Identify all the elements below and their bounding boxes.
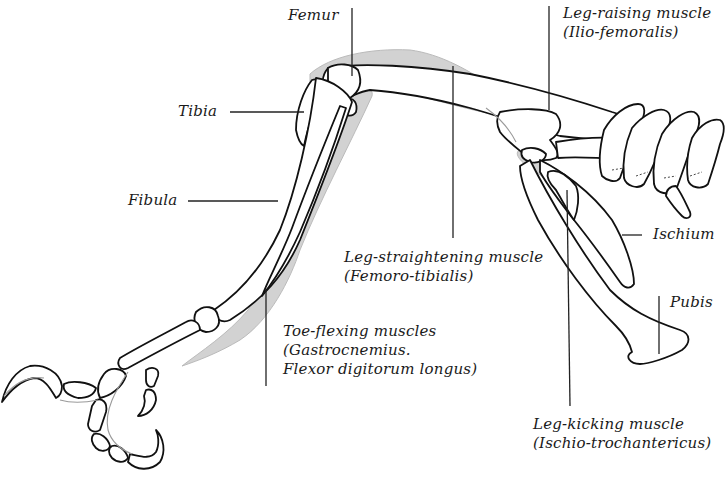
label-leg-straightening-latin: (Femoro-tibialis) — [344, 267, 543, 286]
toe-phalanx-4 — [109, 446, 128, 462]
sickle-claw — [2, 366, 62, 402]
label-toe-flexing-muscles: Toe-flexing muscles (Gastrocnemius. Flex… — [283, 322, 477, 379]
label-leg-straightening-muscle: Leg-straightening muscle (Femoro-tibiali… — [344, 248, 543, 286]
leg-kicking-leader — [567, 190, 570, 406]
sickle-toe-phalanx — [64, 382, 96, 398]
label-leg-kicking-muscle: Leg-kicking muscle (Ischio-trochantericu… — [533, 415, 711, 453]
hallux-claw — [138, 389, 156, 416]
hind-limb-anatomy-diagram — [0, 0, 726, 483]
label-femur-text: Femur — [288, 6, 339, 25]
hallux-phalanx — [146, 368, 158, 387]
label-pubis-text: Pubis — [670, 293, 713, 312]
label-fibula-text: Fibula — [128, 191, 177, 210]
toe-phalanx-3 — [92, 434, 110, 451]
lower-toe-claw — [128, 430, 163, 469]
label-leg-raising-name: Leg-raising muscle — [563, 4, 711, 23]
toe-phalanx-1 — [98, 369, 126, 398]
label-femur: Femur — [288, 6, 339, 25]
label-leg-kicking-name: Leg-kicking muscle — [533, 415, 711, 434]
label-toe-flexing-latin-1: (Gastrocnemius. — [283, 341, 477, 360]
femur-bone — [323, 65, 644, 140]
label-ischium: Ischium — [653, 225, 715, 244]
label-pubis: Pubis — [670, 293, 713, 312]
vertebrae — [600, 104, 724, 218]
toe-phalanx-2 — [88, 400, 106, 432]
label-fibula: Fibula — [128, 191, 177, 210]
label-tibia: Tibia — [178, 102, 217, 121]
label-ischium-text: Ischium — [653, 225, 715, 244]
label-tibia-text: Tibia — [178, 102, 217, 121]
label-leg-raising-latin: (Ilio-femoralis) — [563, 23, 711, 42]
label-toe-flexing-name: Toe-flexing muscles — [283, 322, 477, 341]
label-leg-raising-muscle: Leg-raising muscle (Ilio-femoralis) — [563, 4, 711, 42]
caudal-process — [666, 186, 690, 218]
label-toe-flexing-latin-2: Flexor digitorum longus) — [283, 360, 477, 379]
label-leg-straightening-name: Leg-straightening muscle — [344, 248, 543, 267]
foot-tendon-2 — [60, 400, 98, 402]
label-leg-kicking-latin: (Ischio-trochantericus) — [533, 434, 711, 453]
